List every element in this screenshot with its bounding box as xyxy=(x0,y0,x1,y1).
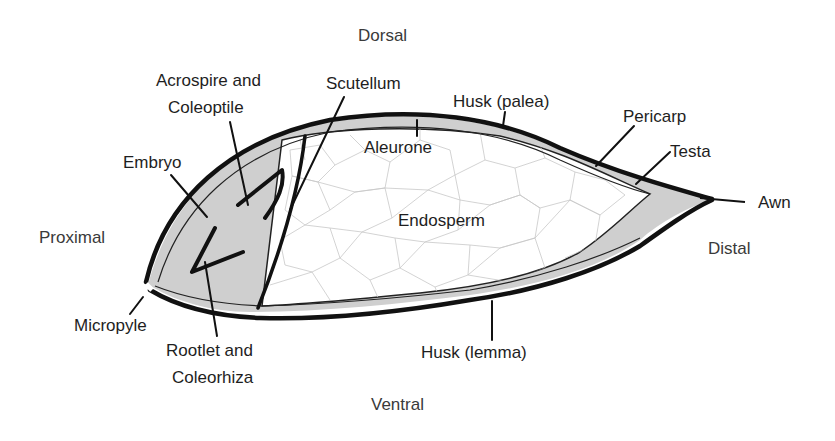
barley-grain-diagram: Dorsal Ventral Proximal Distal Acrospire… xyxy=(0,0,835,441)
label-scutellum: Scutellum xyxy=(326,74,401,93)
label-distal: Distal xyxy=(708,239,751,258)
label-endosperm: Endosperm xyxy=(398,211,485,230)
label-acrospire-line1: Acrospire and xyxy=(156,71,261,90)
leader-husk-palea xyxy=(503,112,505,126)
label-awn: Awn xyxy=(758,193,791,212)
leader-pericarp xyxy=(596,126,634,166)
label-rootlet-line2: Coleorhiza xyxy=(172,368,254,387)
leader-micropyle xyxy=(130,297,143,314)
label-husk-palea: Husk (palea) xyxy=(453,92,549,111)
label-embryo: Embryo xyxy=(123,153,182,172)
label-dorsal: Dorsal xyxy=(358,26,407,45)
label-pericarp: Pericarp xyxy=(623,107,686,126)
label-micropyle: Micropyle xyxy=(74,316,147,335)
label-husk-lemma: Husk (lemma) xyxy=(421,343,527,362)
label-ventral: Ventral xyxy=(371,395,424,414)
label-aleurone: Aleurone xyxy=(364,138,432,157)
label-acrospire-line2: Coleoptile xyxy=(168,98,244,117)
label-rootlet-line1: Rootlet and xyxy=(166,341,253,360)
label-testa: Testa xyxy=(670,142,711,161)
label-proximal: Proximal xyxy=(39,228,105,247)
leader-testa xyxy=(636,152,670,184)
